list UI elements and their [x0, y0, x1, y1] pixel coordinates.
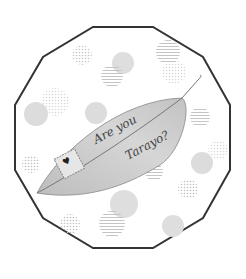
illustration: ♥ Are you Tarayo?	[0, 0, 246, 279]
